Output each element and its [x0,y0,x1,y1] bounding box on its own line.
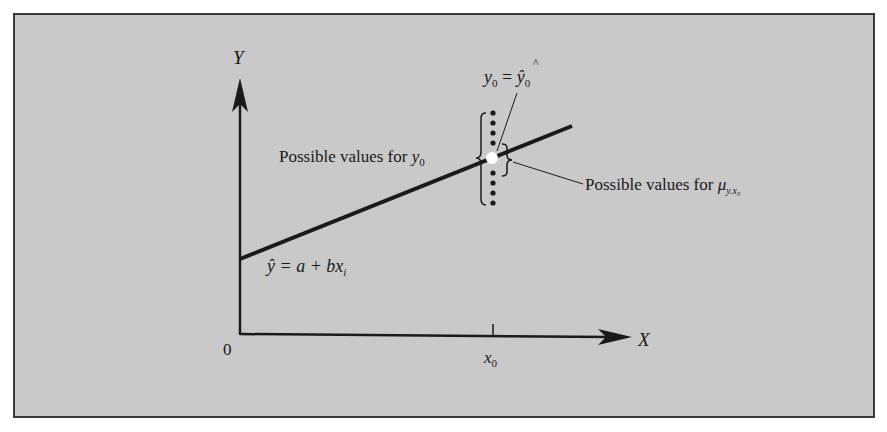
point-label-leader [497,93,517,151]
x-axis-label: X [637,329,651,350]
double-hat-mark: ^ [533,56,539,70]
regression-equation: ŷ = a + bxi [265,256,346,278]
x-axis [240,329,632,345]
y-axis-label: Y [233,47,246,68]
regression-line [240,126,572,259]
predicted-point [486,152,498,164]
annotation-possible-y0: Possible values for y0 [279,147,425,168]
annotation-possible-mu: Possible values for μy.x₀ [585,175,741,196]
annotation-mu-leader [513,162,583,184]
point-label: y0 = ŷ0 [482,67,531,89]
x0-tick-label: x0 [483,348,498,369]
regression-diagram: Y X 0 x0 ŷ = a + bxi y0 = ŷ0 ^ Possible … [0,0,887,432]
y-axis [232,78,248,335]
origin-label: 0 [223,340,232,359]
